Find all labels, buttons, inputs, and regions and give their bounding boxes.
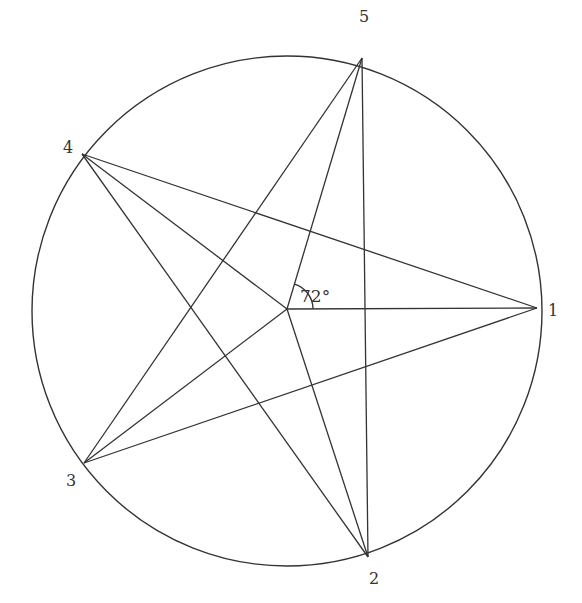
chord-1-4: [82, 154, 537, 308]
radius-4: [82, 154, 287, 309]
point-label-5: 5: [359, 7, 369, 26]
chord-2-5: [362, 58, 368, 557]
pentagram-circle-diagram: 72° 1 2 3 4 5: [0, 0, 582, 603]
point-label-4: 4: [63, 138, 73, 157]
point-label-1: 1: [548, 301, 558, 320]
radius-2: [287, 309, 368, 557]
radius-5: [287, 58, 362, 309]
radius-1: [287, 308, 537, 309]
radius-3: [84, 309, 287, 463]
angle-label: 72°: [300, 286, 330, 306]
point-label-2: 2: [369, 569, 379, 588]
point-label-3: 3: [66, 471, 76, 490]
chord-1-3: [84, 308, 537, 463]
